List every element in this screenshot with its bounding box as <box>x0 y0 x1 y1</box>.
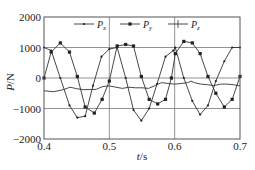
y-axis-label: P/N <box>4 73 16 92</box>
square-marker <box>199 52 202 55</box>
series-py <box>42 40 241 115</box>
dot-marker <box>140 120 142 122</box>
dot-marker <box>172 49 174 51</box>
square-marker <box>174 52 177 55</box>
square-marker <box>124 43 127 46</box>
x-tick-label: 0.4 <box>37 140 51 152</box>
dot-marker <box>59 77 61 79</box>
y-tick-label: −1000 <box>13 103 42 115</box>
y-tick-label: 1000 <box>19 42 42 54</box>
legend-item-py: Py <box>120 19 153 32</box>
dot-marker <box>199 114 201 116</box>
square-marker <box>214 92 217 95</box>
legend-label: Pz <box>190 19 200 32</box>
x-tick-label: 0.5 <box>102 140 116 152</box>
square-marker <box>84 105 87 108</box>
dot-marker <box>76 117 78 119</box>
square-marker <box>206 75 209 78</box>
square-marker <box>223 105 226 108</box>
x-axis-label: t/s <box>137 150 147 162</box>
dot-marker <box>84 115 86 117</box>
square-marker <box>191 41 194 44</box>
x-tick-label: 0.6 <box>168 140 182 152</box>
dot-marker <box>132 109 134 111</box>
square-marker <box>170 76 173 79</box>
square-marker <box>59 41 62 44</box>
square-marker <box>132 44 135 47</box>
dot-marker <box>215 80 217 82</box>
y-tick-label: 2000 <box>19 11 42 23</box>
square-marker <box>148 98 151 101</box>
x-tick-label: 0.7 <box>233 140 247 152</box>
y-axis-ticks: 200010000−1000−2000 <box>13 11 42 145</box>
dot-marker <box>183 77 185 79</box>
dot-marker <box>148 107 150 109</box>
force-time-chart: 200010000−1000−2000 0.40.50.60.7 PxPyPz … <box>0 0 255 170</box>
dot-marker <box>191 100 193 102</box>
dot-marker <box>174 46 176 48</box>
square-marker <box>116 44 119 47</box>
square-marker <box>68 50 71 53</box>
square-marker <box>140 75 143 78</box>
square-marker <box>50 50 53 53</box>
dot-marker-icon <box>83 23 85 25</box>
dot-marker <box>164 56 166 58</box>
square-marker <box>231 98 234 101</box>
legend-label: Py <box>142 19 153 32</box>
data-series <box>42 40 241 122</box>
square-marker <box>108 79 111 82</box>
legend-item-pz: Pz <box>168 19 200 32</box>
dot-marker <box>207 104 209 106</box>
legend-item-px: Px <box>74 19 107 32</box>
y-tick-label: 0 <box>36 72 42 84</box>
dot-marker <box>231 46 233 48</box>
dot-marker <box>68 104 70 106</box>
dot-marker <box>223 60 225 62</box>
square-marker <box>101 98 104 101</box>
square-marker <box>93 111 96 114</box>
square-marker <box>156 102 159 105</box>
dot-marker <box>125 77 127 79</box>
square-marker <box>164 98 167 101</box>
dot-marker <box>92 85 94 87</box>
dot-marker <box>108 48 110 50</box>
legend-label: Px <box>96 19 107 32</box>
square-marker-icon <box>128 22 131 25</box>
dot-marker <box>100 56 102 58</box>
legend: PxPyPz <box>74 19 200 32</box>
square-marker <box>76 75 79 78</box>
square-marker <box>182 40 185 43</box>
